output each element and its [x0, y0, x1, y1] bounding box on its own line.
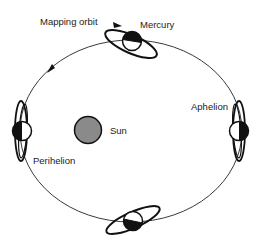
mapping-orbit-arrow-icon: [113, 22, 122, 28]
perihelion-label: Perihelion: [33, 156, 75, 166]
mapping-orbit-label: Mapping orbit: [40, 17, 98, 27]
mercury-label: Mercury: [140, 20, 174, 30]
orbit-diagram: [0, 0, 261, 249]
aphelion-label: Aphelion: [191, 102, 228, 112]
mercury-perihelion: [13, 101, 32, 161]
sun-icon: [75, 117, 102, 144]
sun-label: Sun: [110, 126, 127, 136]
